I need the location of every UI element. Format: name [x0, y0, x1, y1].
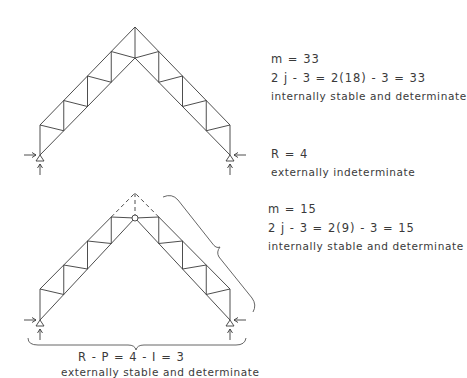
- top-members-count: m = 33: [271, 52, 320, 66]
- left-diagonal: [40, 289, 64, 295]
- pin-support-icon: [36, 320, 44, 326]
- right-top-chord: [159, 217, 230, 289]
- bottom-joints-equation: 2 j - 3 = 2(9) - 3 = 15: [268, 221, 415, 235]
- bottom-external-status: externally stable and determinate: [61, 367, 260, 377]
- right-diagonal: [183, 101, 207, 107]
- vertical-reaction-arrow-icon: [38, 329, 43, 340]
- right-removed-chord: [135, 193, 159, 217]
- vertical-reaction-arrow-icon: [228, 164, 233, 175]
- horizontal-reaction-arrow-icon: [24, 318, 36, 323]
- left-diagonal: [111, 52, 135, 59]
- bottom-members-count: m = 15: [268, 202, 317, 216]
- pin-support-icon: [36, 155, 44, 161]
- right-diagonal: [159, 241, 183, 244]
- pin-support-icon: [226, 320, 234, 326]
- left-diagonal: [64, 101, 88, 107]
- left-diagonal: [111, 217, 135, 218]
- right-diagonal: [159, 76, 183, 82]
- bottom-truss: [24, 193, 246, 340]
- right-diagonal: [135, 52, 159, 59]
- horizontal-reaction-arrow-icon: [234, 318, 246, 323]
- left-diagonal: [88, 241, 112, 244]
- right-diagonal: [135, 217, 159, 218]
- horizontal-reaction-arrow-icon: [234, 153, 246, 158]
- left-top-chord: [40, 217, 111, 289]
- vertical-reaction-arrow-icon: [228, 329, 233, 340]
- top-truss: [24, 27, 246, 175]
- right-diagonal: [183, 265, 207, 269]
- base-span-brace: [28, 338, 246, 350]
- right-diagonal: [206, 125, 230, 131]
- left-diagonal: [64, 265, 88, 269]
- vertical-reaction-arrow-icon: [38, 164, 43, 175]
- right-diagonal: [206, 289, 230, 295]
- left-diagonal: [88, 76, 112, 82]
- bottom-reactions-equation: R - P = 4 - I = 3: [78, 350, 185, 364]
- pin-support-icon: [226, 155, 234, 161]
- top-internal-status: internally stable and determinate: [271, 90, 467, 102]
- bottom-internal-status: internally stable and determinate: [268, 240, 464, 252]
- right-segment-brace: [163, 196, 255, 312]
- horizontal-reaction-arrow-icon: [24, 153, 36, 158]
- top-external-status: externally indeterminate: [271, 166, 415, 178]
- top-reactions-count: R = 4: [271, 147, 308, 161]
- left-removed-chord: [111, 193, 135, 217]
- left-diagonal: [40, 125, 64, 131]
- top-joints-equation: 2 j - 3 = 2(18) - 3 = 33: [271, 71, 426, 85]
- hinge-icon: [132, 215, 138, 221]
